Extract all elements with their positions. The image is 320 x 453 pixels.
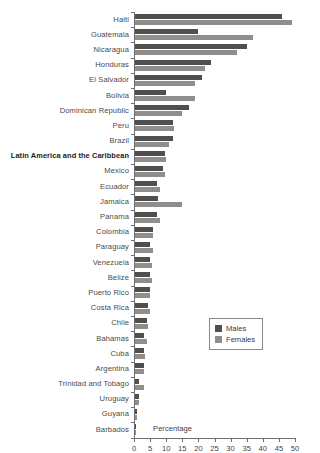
bar-group (134, 58, 317, 73)
y-axis-tick (131, 88, 134, 89)
category-label: Bahamas (0, 335, 134, 343)
bar-males (134, 303, 148, 308)
bar-males (134, 363, 144, 368)
bar-row: Latin America and the Caribbean (0, 149, 317, 164)
bar-group (134, 407, 317, 422)
bar-group (134, 12, 317, 27)
bar-males (134, 166, 163, 171)
y-axis-tick (131, 240, 134, 241)
x-axis-tick-label: 5 (148, 444, 152, 453)
x-axis-tick (134, 438, 135, 442)
bar-row: Venezuela (0, 255, 317, 270)
x-axis-tick-label: 35 (242, 444, 250, 453)
x-axis-tick (247, 438, 248, 442)
y-axis-tick (131, 73, 134, 74)
bar-females (134, 20, 292, 25)
bar-row: Panama (0, 209, 317, 224)
bar-row: Belize (0, 270, 317, 285)
bar-females (134, 50, 237, 55)
category-label: Cuba (0, 350, 134, 358)
bar-females (134, 202, 182, 207)
bar-females (134, 263, 152, 268)
x-axis-tick-label: 40 (259, 444, 267, 453)
bar-group (134, 361, 317, 376)
bar-row: El Salvador (0, 73, 317, 88)
bar-males (134, 181, 157, 186)
bar-males (134, 29, 198, 34)
bar-row: Chile (0, 316, 317, 331)
category-label: Costa Rica (0, 304, 134, 312)
x-axis-tick (263, 438, 264, 442)
bar-row: Colombia (0, 225, 317, 240)
bar-males (134, 44, 247, 49)
y-axis-tick (131, 316, 134, 317)
category-label: Puerto Rico (0, 289, 134, 297)
bar-group (134, 194, 317, 209)
bar-males (134, 212, 157, 217)
bar-females (134, 233, 153, 238)
legend-item-males: Males (215, 323, 255, 334)
category-label: Nicaragua (0, 46, 134, 54)
x-axis-tick-label: 20 (194, 444, 202, 453)
legend-label-females: Females (226, 335, 255, 344)
bar-row: Argentina (0, 361, 317, 376)
bar-row: Honduras (0, 58, 317, 73)
bar-group (134, 179, 317, 194)
bar-group (134, 73, 317, 88)
bar-group (134, 103, 317, 118)
bar-group (134, 118, 317, 133)
bar-group (134, 225, 317, 240)
bar-females (134, 142, 169, 147)
bar-males (134, 242, 150, 247)
bar-row: Nicaragua (0, 42, 317, 57)
legend-swatch-males-icon (215, 325, 222, 332)
bar-rows: HaitiGuatemalaNicaraguaHondurasEl Salvad… (0, 12, 317, 437)
category-label: Panama (0, 213, 134, 221)
y-axis-tick (131, 103, 134, 104)
bar-females (134, 309, 150, 314)
category-label: Mexico (0, 167, 134, 175)
category-label: Honduras (0, 61, 134, 69)
bar-group (134, 240, 317, 255)
bar-row: Haiti (0, 12, 317, 27)
y-axis-tick (131, 255, 134, 256)
category-label: Latin America and the Caribbean (0, 152, 134, 160)
category-label: Bolivia (0, 92, 134, 100)
y-axis-tick (131, 407, 134, 408)
bar-row: Jamaica (0, 194, 317, 209)
bar-males (134, 348, 144, 353)
x-axis-tick (231, 438, 232, 442)
bar-row: Paraguay (0, 240, 317, 255)
bar-females (134, 248, 153, 253)
y-axis-tick (131, 27, 134, 28)
plot-area: HaitiGuatemalaNicaraguaHondurasEl Salvad… (0, 12, 317, 437)
bar-females (134, 96, 195, 101)
y-axis-tick (131, 331, 134, 332)
bar-row: Peru (0, 118, 317, 133)
chart-legend: Males Females (209, 318, 263, 350)
bar-row: Guatemala (0, 27, 317, 42)
y-axis-tick (131, 225, 134, 226)
y-axis-tick (131, 179, 134, 180)
bar-group (134, 134, 317, 149)
x-axis-title: Percentage (14, 424, 320, 433)
bar-females (134, 293, 150, 298)
bar-females (134, 324, 148, 329)
x-axis-tick-label: 45 (275, 444, 283, 453)
bar-row: Puerto Rico (0, 285, 317, 300)
x-axis-tick-label: 0 (132, 444, 136, 453)
bar-females (134, 187, 160, 192)
bar-females (134, 35, 253, 40)
bar-males (134, 75, 202, 80)
bar-females (134, 111, 182, 116)
bar-females (134, 66, 205, 71)
x-axis-tick-label: 25 (210, 444, 218, 453)
y-axis-line (134, 12, 135, 438)
category-label: Jamaica (0, 198, 134, 206)
x-axis-tick-label: 10 (162, 444, 170, 453)
bar-males (134, 257, 150, 262)
bar-group (134, 88, 317, 103)
bar-males (134, 60, 211, 65)
category-label: Peru (0, 122, 134, 130)
y-axis-tick (131, 134, 134, 135)
